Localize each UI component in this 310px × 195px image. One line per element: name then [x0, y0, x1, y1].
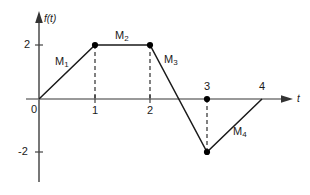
- segment-label-m2-text: M: [115, 29, 124, 41]
- point-t1-f2: [92, 42, 98, 48]
- y-axis-arrowhead: [35, 11, 43, 23]
- x-tick-label-4: 4: [259, 81, 265, 92]
- point-t3-fneg2: [204, 149, 210, 155]
- x-axis-label: t: [297, 94, 300, 104]
- segment-label-m3: M3: [164, 54, 178, 65]
- piecewise-function-graph: f(t) t 0 2 -2 1 2 3 4 M1 M2 M3 M4: [0, 0, 310, 195]
- y-tick-label-neg2: -2: [18, 146, 28, 157]
- point-t2-f2: [147, 42, 153, 48]
- segment-label-m2-subscript: 2: [124, 34, 128, 43]
- segment-label-m1-subscript: 1: [64, 60, 68, 69]
- segment-label-m1-text: M: [55, 55, 64, 67]
- segment-label-m4-text: M: [233, 125, 242, 137]
- segment-label-m2: M2: [115, 30, 129, 41]
- segment-label-m4-subscript: 4: [242, 130, 246, 139]
- x-tick-label-2: 2: [147, 105, 153, 116]
- segment-label-m3-subscript: 3: [173, 58, 177, 67]
- y-tick-label-2: 2: [24, 39, 30, 50]
- x-axis-arrowhead: [281, 95, 293, 103]
- x-tick-label-3: 3: [204, 81, 210, 92]
- segment-label-m4: M4: [233, 126, 247, 137]
- origin-label: 0: [31, 104, 37, 115]
- segment-label-m3-text: M: [164, 53, 173, 65]
- y-axis-label: f(t): [44, 14, 56, 24]
- graph-canvas: [0, 0, 310, 195]
- point-t3-f0: [204, 96, 210, 102]
- segment-label-m1: M1: [55, 56, 69, 67]
- x-tick-label-1: 1: [92, 105, 98, 116]
